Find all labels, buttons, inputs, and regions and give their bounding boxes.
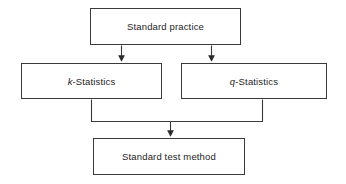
edge-q-to-junction-line bbox=[171, 100, 263, 122]
node-standard-test-method: Standard test method bbox=[93, 138, 245, 175]
edge-k-to-junction-line bbox=[92, 100, 171, 122]
diagram-canvas: Standard practice k-Statistics q-Statist… bbox=[0, 0, 346, 184]
node-standard-practice: Standard practice bbox=[90, 8, 241, 45]
node-k-statistics-suffix: -Statistics bbox=[73, 76, 116, 87]
node-k-statistics-label: k-Statistics bbox=[68, 76, 116, 87]
node-q-statistics: q-Statistics bbox=[181, 63, 327, 99]
node-q-statistics-label: q-Statistics bbox=[230, 76, 278, 87]
node-standard-practice-label: Standard practice bbox=[127, 21, 204, 32]
node-q-statistics-suffix: -Statistics bbox=[235, 76, 278, 87]
node-k-statistics: k-Statistics bbox=[21, 63, 162, 99]
node-standard-test-method-label: Standard test method bbox=[122, 151, 216, 162]
